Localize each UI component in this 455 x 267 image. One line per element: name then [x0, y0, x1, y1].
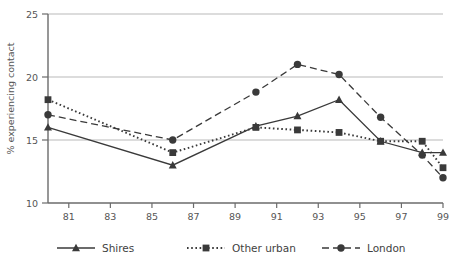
- x-tick-label-93: 93: [312, 211, 324, 222]
- y-tick-label-20: 20: [26, 72, 38, 83]
- series-line-shires: [48, 100, 443, 166]
- line-chart: 1015202581838587899193959799% experienci…: [0, 0, 455, 267]
- datapoint-london-94: [335, 71, 342, 78]
- datapoint-other-urban-80: [45, 96, 52, 103]
- x-tick-label-89: 89: [229, 211, 241, 222]
- x-tick-label-97: 97: [395, 211, 407, 222]
- x-tick-label-99: 99: [437, 211, 449, 222]
- legend-marker-square-icon: [203, 245, 210, 252]
- legend-label-london: London: [367, 242, 406, 254]
- datapoint-other-urban-99: [440, 164, 447, 171]
- datapoint-other-urban-94: [336, 129, 343, 136]
- datapoint-other-urban-92: [294, 127, 301, 134]
- legend-label-shires: Shires: [102, 242, 134, 254]
- y-tick-label-15: 15: [26, 135, 38, 146]
- legend-item-london[interactable]: London: [322, 242, 406, 254]
- datapoint-other-urban-86: [169, 149, 176, 156]
- datapoint-other-urban-90: [252, 124, 259, 131]
- datapoint-london-90: [252, 88, 259, 95]
- datapoint-shires-94: [335, 95, 343, 102]
- x-tick-label-81: 81: [63, 211, 75, 222]
- legend-marker-circle-icon: [337, 244, 344, 251]
- y-axis-title: % experiencing contact: [5, 42, 16, 154]
- datapoint-london-86: [169, 136, 176, 143]
- x-tick-label-91: 91: [271, 211, 283, 222]
- legend-label-other-urban: Other urban: [232, 242, 296, 254]
- legend-item-shires[interactable]: Shires: [57, 242, 134, 254]
- datapoint-london-92: [294, 61, 301, 68]
- x-tick-label-83: 83: [104, 211, 116, 222]
- datapoint-london-96: [377, 114, 384, 121]
- y-tick-label-10: 10: [26, 198, 38, 209]
- series-line-other-urban: [48, 100, 443, 168]
- x-tick-label-95: 95: [354, 211, 366, 222]
- series-line-london: [48, 64, 443, 177]
- datapoint-london-80: [44, 111, 51, 118]
- x-tick-label-85: 85: [146, 211, 158, 222]
- datapoint-shires-80: [44, 123, 52, 130]
- datapoint-london-98: [419, 151, 426, 158]
- legend-item-other-urban[interactable]: Other urban: [187, 242, 296, 254]
- x-tick-label-87: 87: [187, 211, 199, 222]
- datapoint-other-urban-96: [377, 138, 384, 145]
- datapoint-other-urban-98: [419, 138, 426, 145]
- y-tick-label-25: 25: [26, 9, 38, 20]
- chart-container: 1015202581838587899193959799% experienci…: [0, 0, 455, 267]
- datapoint-london-99: [439, 174, 446, 181]
